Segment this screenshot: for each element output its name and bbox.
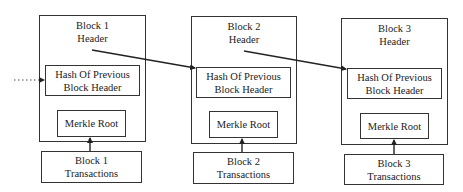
block-3-tx-line2: Transactions	[345, 170, 443, 183]
block-3-merkle-box: Merkle Root	[360, 113, 429, 139]
block-3-merkle-label: Merkle Root	[361, 120, 428, 133]
block-1-merkle-box: Merkle Root	[57, 110, 126, 137]
block-2-header-title: Block 2 Header	[192, 20, 296, 46]
block-1-hash-box: Hash Of Previous Block Header	[45, 65, 140, 96]
block-2-hash-line2: Block Header	[197, 83, 290, 96]
block-2-header-line2: Header	[192, 33, 296, 46]
block-1-transactions-box: Block 1 Transactions	[41, 151, 142, 183]
block-1-hash-line1: Hash Of Previous	[46, 68, 139, 81]
block-1-header-title: Block 1 Header	[40, 19, 145, 45]
block-2-merkle-box: Merkle Root	[209, 111, 278, 138]
block-1-merkle-label: Merkle Root	[58, 117, 125, 130]
block-2-tx-line2: Transactions	[194, 168, 293, 181]
block-2-hash-line1: Hash Of Previous	[197, 70, 290, 83]
block-3-hash-line1: Hash Of Previous	[348, 71, 441, 84]
block-3-tx-line1: Block 3	[345, 157, 443, 170]
block-3-header-line1: Block 3	[342, 22, 447, 35]
block-3-hash-box: Hash Of Previous Block Header	[347, 68, 442, 99]
block-1-hash-label: Hash Of Previous Block Header	[46, 68, 139, 94]
block-1-tx-line1: Block 1	[42, 154, 141, 167]
block-3-hash-line2: Block Header	[348, 84, 441, 97]
block-3-transactions-box: Block 3 Transactions	[344, 154, 444, 185]
block-1-header-line1: Block 1	[40, 19, 145, 32]
block-3-header-line2: Header	[342, 35, 447, 48]
block-2-tx-line1: Block 2	[194, 155, 293, 168]
block-2-transactions-box: Block 2 Transactions	[193, 152, 294, 184]
block-1-hash-line2: Block Header	[46, 81, 139, 94]
block-3-header-title: Block 3 Header	[342, 22, 447, 48]
block-1-tx-line2: Transactions	[42, 167, 141, 180]
block-2-merkle-label: Merkle Root	[210, 118, 277, 131]
block-3-hash-label: Hash Of Previous Block Header	[348, 71, 441, 97]
block-2-header-line1: Block 2	[192, 20, 296, 33]
block-2-transactions-label: Block 2 Transactions	[194, 155, 293, 181]
block-2-hash-label: Hash Of Previous Block Header	[197, 70, 290, 96]
block-3-transactions-label: Block 3 Transactions	[345, 157, 443, 183]
block-1-transactions-label: Block 1 Transactions	[42, 154, 141, 180]
block-2-hash-box: Hash Of Previous Block Header	[196, 67, 291, 98]
block-1-header-line2: Header	[40, 32, 145, 45]
